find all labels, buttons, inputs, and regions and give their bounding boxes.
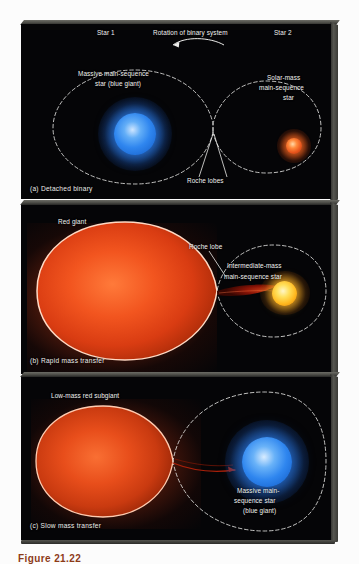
panel-c-caption: (c) Slow mass transfer [30,522,101,529]
panel-b-caption: (b) Rapid mass transfer [30,357,105,364]
label-red-subgiant-c: Low-mass red subgiant [51,392,119,400]
label-blue-giant-a-line1: Massive main-sequence [78,70,149,78]
panel-a-frame-right [330,22,338,200]
blue-giant-c [242,437,292,487]
panel-c-frame-right [330,374,338,542]
panel-a-vectors [21,24,331,199]
panel-b-frame-right [330,202,338,374]
label-companion-b-line2: main-sequence star [224,273,282,281]
label-solar-mass-star-a-line2: main-sequence [259,84,304,92]
label-solar-mass-star-a-line3: star [283,94,294,102]
panel-c: Low-mass red subgiant Massive main- sequ… [21,377,331,540]
label-star1-a: Star 1 [97,29,115,37]
binary-star-evolution-figure: Star 1 Rotation of binary system Star 2 … [0,0,359,564]
label-blue-giant-c-line3: (blue giant) [243,507,276,515]
rotation-arrow-a [173,39,224,48]
figure-caption: Figure 21.22 [18,553,81,564]
companion-star-b [272,281,297,306]
label-rotation-a: Rotation of binary system [153,29,228,37]
label-star2-a: Star 2 [274,29,292,37]
label-solar-mass-star-a-line1: Solar-mass [267,74,300,82]
roche-lobes-leaders-a [199,134,227,177]
label-companion-b-line1: Intermediate-mass [227,262,282,270]
panel-a-caption: (a) Detached binary [30,185,93,192]
label-roche-lobes-a: Roche lobes [187,177,224,185]
panel-a: Star 1 Rotation of binary system Star 2 … [21,24,331,199]
label-blue-giant-a-line2: star (blue giant) [95,80,141,88]
roche-lobe-right-a [213,81,321,173]
label-blue-giant-c-line1: Massive main- [237,487,280,495]
label-roche-lobe-b: Roche lobe [189,243,222,251]
panel-c-frame-bottom [21,540,335,544]
red-subgiant-surface-c [36,406,173,517]
label-red-giant-b: Red giant [58,218,86,226]
panel-b: Red giant Roche lobe Intermediate-mass m… [21,205,331,374]
label-blue-giant-c-line2: sequence star [234,497,275,505]
